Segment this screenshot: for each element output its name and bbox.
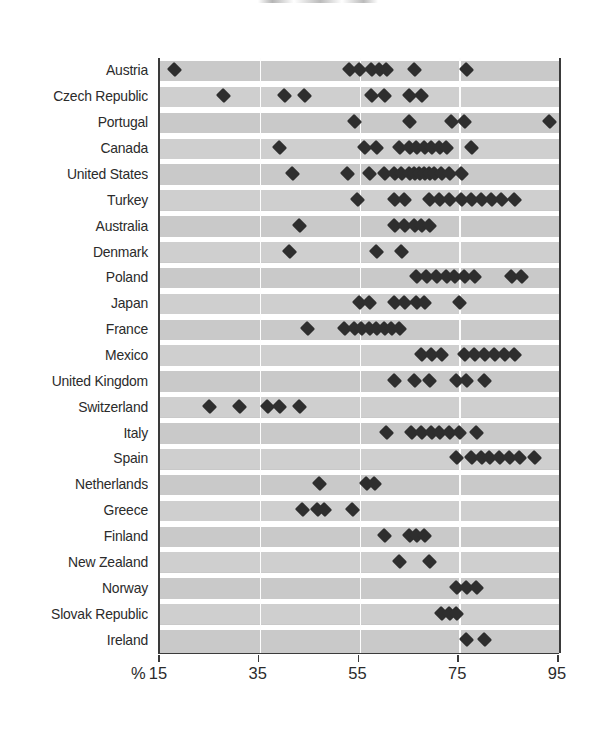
category-label: Austria <box>6 62 148 78</box>
gridline <box>559 58 561 653</box>
category-label: Australia <box>6 218 148 234</box>
axis-tick-label: 55 <box>348 664 366 683</box>
category-label: Finland <box>6 528 148 544</box>
category-label: Mexico <box>6 347 148 363</box>
gridline <box>260 58 262 653</box>
category-label: United States <box>6 166 148 182</box>
category-label: Ireland <box>6 632 148 648</box>
axis-tick <box>158 655 160 662</box>
category-label: Portugal <box>6 114 148 130</box>
plot-area <box>158 58 559 654</box>
category-label: Norway <box>6 580 148 596</box>
category-label: New Zealand <box>6 554 148 570</box>
category-label: Canada <box>6 140 148 156</box>
category-label: Turkey <box>6 192 148 208</box>
axis-tick <box>457 655 459 662</box>
category-label: United Kingdom <box>6 373 148 389</box>
axis-tick <box>258 655 260 662</box>
category-label: Greece <box>6 502 148 518</box>
category-label: Switzerland <box>6 399 148 415</box>
category-label: France <box>6 321 148 337</box>
category-label: Japan <box>6 295 148 311</box>
percent-symbol: % <box>131 664 146 683</box>
x-axis: % 1535557595 <box>0 655 603 695</box>
dot-plot-chart: AustriaCzech RepublicPortugalCanadaUnite… <box>0 0 603 745</box>
category-label: Denmark <box>6 244 148 260</box>
scan-artifact <box>258 0 378 3</box>
category-label: Spain <box>6 450 148 466</box>
axis-tick-label: 35 <box>249 664 267 683</box>
category-label: Czech Republic <box>6 88 148 104</box>
axis-tick <box>358 655 360 662</box>
axis-tick <box>557 655 559 662</box>
category-label: Netherlands <box>6 476 148 492</box>
category-label: Slovak Republic <box>6 606 148 622</box>
axis-tick-label: 95 <box>548 664 566 683</box>
axis-tick-label: 75 <box>448 664 466 683</box>
category-label: Poland <box>6 269 148 285</box>
axis-tick-label: 15 <box>149 664 167 683</box>
category-label: Italy <box>6 425 148 441</box>
